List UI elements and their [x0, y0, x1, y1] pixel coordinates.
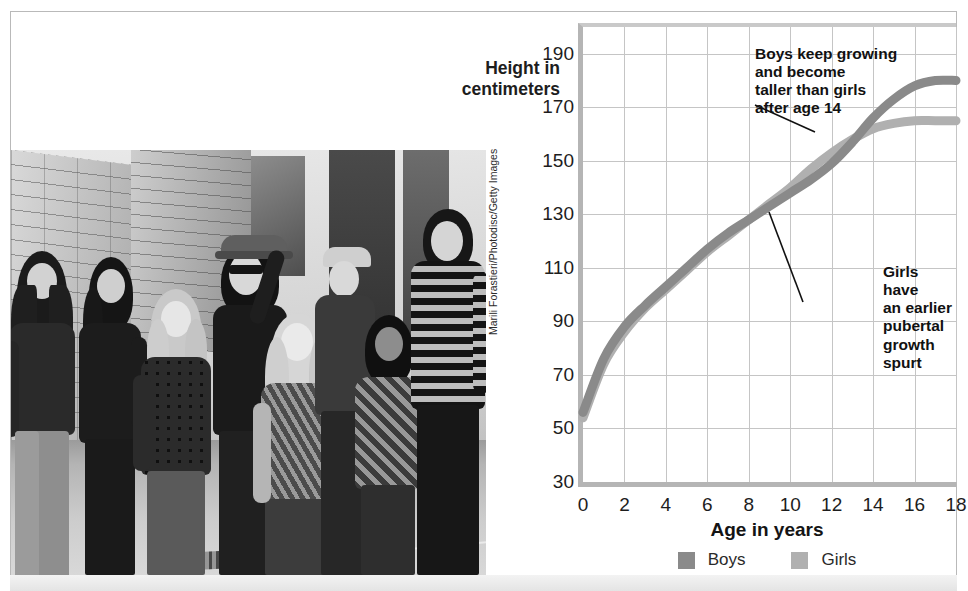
y-axis-tick-130: 130 [542, 203, 574, 225]
x-axis-tick-2: 2 [619, 494, 630, 516]
photo-credit: Marili Forastieri/Photodisc/Getty Images [487, 149, 499, 335]
y-axis-tick-70: 70 [553, 363, 574, 385]
y-axis-tick-150: 150 [542, 149, 574, 171]
chart-legend: Boys Girls [578, 550, 956, 570]
legend-label-boys: Boys [708, 550, 746, 570]
legend-item-girls[interactable]: Girls [791, 550, 856, 570]
height-by-age-chart: Height in centimeters Boys keep growing … [506, 12, 958, 572]
x-axis-tick-0: 0 [578, 494, 589, 516]
legend-item-boys[interactable]: Boys [678, 550, 746, 570]
x-axis-tick-14: 14 [863, 494, 884, 516]
girls-annotation: Girls have an earlier pubertal growth sp… [883, 263, 956, 372]
y-axis-label-line2: centimeters [420, 79, 560, 100]
y-axis-tick-190: 190 [542, 42, 574, 64]
plot-area: Boys keep growing and become taller than… [578, 23, 956, 487]
legend-swatch-girls [791, 552, 808, 569]
y-axis-tick-50: 50 [553, 417, 574, 439]
boys-annotation: Boys keep growing and become taller than… [755, 45, 897, 118]
x-axis-tick-6: 6 [702, 494, 713, 516]
x-axis-tick-16: 16 [904, 494, 925, 516]
photo-canvas [11, 150, 486, 575]
grid-line-vertical [956, 27, 957, 482]
bottom-band [10, 575, 957, 591]
y-axis-tick-90: 90 [553, 310, 574, 332]
y-axis-tick-30: 30 [553, 471, 574, 493]
x-axis-tick-10: 10 [780, 494, 801, 516]
y-axis-label-line1: Height in [420, 58, 560, 79]
y-axis-tick-170: 170 [542, 96, 574, 118]
y-axis-label: Height in centimeters [420, 58, 560, 101]
y-axis-tick-110: 110 [544, 256, 574, 278]
growth-chart-figure: Marili Forastieri/Photodisc/Getty Images… [0, 0, 968, 591]
x-axis-tick-12: 12 [821, 494, 842, 516]
x-axis-tick-4: 4 [661, 494, 672, 516]
x-axis-tick-18: 18 [945, 494, 966, 516]
x-axis-label: Age in years [578, 519, 956, 541]
teenagers-photo [11, 150, 486, 575]
x-axis-tick-8: 8 [743, 494, 754, 516]
girls-leader-line [769, 212, 803, 302]
legend-label-girls: Girls [821, 550, 856, 570]
legend-swatch-boys [678, 552, 695, 569]
